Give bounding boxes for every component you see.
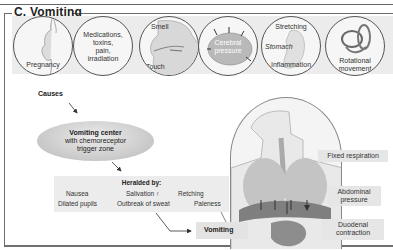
duodenal-line-2: contraction: [322, 229, 384, 237]
symptom: Salivation ↑: [126, 190, 159, 197]
duodenal-line-1: Duodenal: [322, 221, 384, 229]
symptom: Outbreak of sweat: [117, 200, 170, 207]
heralded-title: Heralded by:: [54, 179, 229, 186]
duodenal-contraction-label: Duodenal contraction: [322, 219, 384, 240]
symptom: Paleness: [194, 200, 221, 207]
abdominal-line-2: pressure: [327, 196, 381, 204]
symptom: Nausea: [66, 190, 88, 197]
symptom: Dilated pupils: [58, 200, 97, 207]
heralded-by-box: Heralded by: Nausea Salivation ↑ Retchin…: [54, 176, 229, 212]
center-title: Vomiting center: [37, 129, 154, 137]
vomiting-outcome: Vomiting: [196, 222, 248, 239]
fixed-respiration-label: Fixed respiration: [318, 150, 388, 162]
center-subtitle: trigger zone: [37, 145, 154, 153]
symptom: Retching: [178, 190, 204, 197]
abdominal-line-1: Abdominal: [327, 188, 381, 196]
vomiting-center-node: Vomiting center with chemoreceptor trigg…: [37, 121, 154, 161]
abdominal-pressure-label: Abdominal pressure: [327, 186, 381, 206]
center-subtitle: with chemoreceptor: [37, 137, 154, 145]
